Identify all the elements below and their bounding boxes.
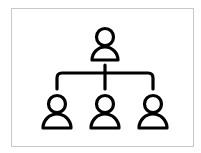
- hierarchy-connector-lines: [57, 65, 153, 89]
- org-chart-icon: [0, 0, 201, 153]
- person-icon-top: [92, 29, 118, 61]
- person-icon-right: [139, 96, 167, 129]
- person-icon-center: [91, 96, 119, 129]
- person-icon-left: [43, 96, 71, 129]
